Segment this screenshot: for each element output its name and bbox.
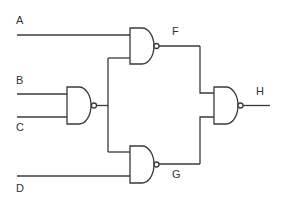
nand-gate-g	[130, 146, 154, 183]
label-b: B	[16, 74, 23, 86]
nand-gate-bc	[67, 87, 91, 124]
label-d: D	[16, 182, 24, 194]
wire-g-to-h	[200, 117, 214, 164]
nand-gate-f	[130, 28, 154, 64]
label-a: A	[16, 14, 24, 26]
nand-bubble-g	[154, 162, 159, 167]
logic-circuit-diagram: A B C D F G H	[0, 0, 282, 207]
wire-f-to-h	[200, 46, 214, 93]
label-f: F	[172, 25, 179, 37]
label-c: C	[16, 121, 24, 133]
nand-bubble-f	[154, 44, 159, 49]
nand-bubble-bc	[92, 103, 97, 108]
label-h: H	[256, 85, 264, 97]
label-g: G	[172, 168, 181, 180]
nand-bubble-h	[238, 103, 243, 108]
nand-gate-h	[214, 87, 238, 124]
